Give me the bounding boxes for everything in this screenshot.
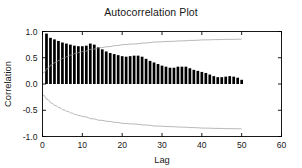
- acf-bar: [189, 68, 192, 84]
- x-tick-label: 60: [277, 140, 287, 150]
- acf-bar: [169, 68, 172, 84]
- acf-bar: [61, 43, 64, 84]
- acf-bar: [204, 73, 207, 84]
- y-tick-label: -1.0: [23, 132, 38, 142]
- acf-bar: [185, 67, 188, 84]
- acf-bar: [93, 45, 96, 84]
- acf-bar: [197, 71, 200, 84]
- acf-bar: [193, 70, 196, 84]
- acf-bar: [65, 44, 68, 84]
- acf-bar: [113, 54, 116, 84]
- acf-bar: [97, 47, 100, 84]
- acf-bar: [49, 38, 52, 84]
- acf-bar: [149, 61, 152, 84]
- y-tick-label: 1.0: [26, 27, 38, 37]
- acf-bar: [45, 34, 48, 84]
- acf-bar: [208, 75, 211, 84]
- acf-bar: [153, 62, 156, 84]
- plot-canvas: 0102030405060 1.00.50.0-0.5-1.0 Lag Corr…: [0, 0, 302, 168]
- x-tick-label: 40: [197, 140, 207, 150]
- acf-bar: [181, 67, 184, 84]
- acf-bar: [125, 57, 128, 84]
- acf-bar: [101, 49, 104, 84]
- acf-bar: [133, 56, 136, 84]
- y-axis-title: Correlation: [2, 61, 13, 107]
- x-tick-label: 30: [157, 140, 167, 150]
- acf-bar: [53, 39, 56, 84]
- x-tick-label: 0: [40, 140, 45, 150]
- acf-bar: [200, 72, 203, 84]
- acf-bar: [129, 56, 132, 84]
- acf-bar: [240, 80, 243, 84]
- x-tick-label: 50: [237, 140, 247, 150]
- acf-bar: [224, 77, 227, 84]
- acf-bar: [212, 76, 215, 84]
- acf-bar: [216, 77, 219, 84]
- acf-bar: [105, 51, 108, 84]
- autocorrelation-plot-figure: Autocorrelation Plot 0102030405060 1.00.…: [0, 0, 302, 168]
- lower-confidence-band-line: [43, 95, 242, 129]
- acf-bar: [57, 41, 60, 84]
- y-tick-label: 0.5: [26, 53, 38, 63]
- acf-bar: [73, 46, 76, 84]
- acf-bar: [173, 68, 176, 84]
- acf-bar: [117, 55, 120, 84]
- acf-bar: [232, 77, 235, 84]
- acf-bar: [236, 78, 239, 84]
- acf-bar: [228, 76, 231, 84]
- y-tick-label: 0.0: [26, 79, 38, 89]
- acf-bar: [77, 46, 80, 84]
- y-tick-label: -0.5: [23, 105, 38, 115]
- x-axis-title: Lag: [154, 154, 170, 165]
- x-tick-label: 10: [78, 140, 88, 150]
- acf-bar: [165, 67, 168, 84]
- acf-bar: [177, 67, 180, 84]
- acf-bar: [137, 56, 140, 84]
- acf-bar: [69, 45, 72, 84]
- acf-bar: [109, 53, 112, 84]
- acf-bar: [157, 64, 160, 84]
- x-tick-label: 20: [117, 140, 127, 150]
- acf-bar: [121, 56, 124, 84]
- acf-bar: [141, 57, 144, 84]
- acf-bar: [161, 66, 164, 84]
- acf-bar: [220, 77, 223, 84]
- acf-bar: [145, 59, 148, 84]
- bar-series: [45, 34, 243, 84]
